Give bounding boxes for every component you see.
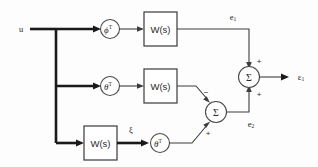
arrowhead-middle-gain [93,83,101,90]
arrowhead-output [281,74,289,81]
signal-epsilon1-sub: 1 [301,76,304,82]
wire-e2-group: e2 [227,85,255,129]
row-top-group: ϕT W(s) e1 [101,12,252,69]
sign-minus-middle-summer: − [204,88,209,97]
arrowhead-bottom-gain [141,140,149,147]
wire-e2 [227,92,250,112]
arrowhead-summer-middle-minus [203,96,210,103]
block-diagram-svg: ϕT W(s) e1 θT [0,0,318,167]
arrowhead-top-block [137,26,144,32]
block-w-top-label: W(s) [150,24,170,35]
signal-label-e1: e1 [230,12,237,22]
output-group: ε1 [260,72,305,82]
gain-theta-bottom-superscript: T [159,138,163,144]
summer-right-symbol: Σ [246,72,252,83]
block-diagram-canvas: ϕT W(s) e1 θT [0,0,318,167]
signal-e2-sub: 2 [251,123,254,129]
signal-label-e2: e2 [248,119,255,129]
summing-junction-middle[interactable]: Σ [206,102,227,123]
summer-middle-symbol: Σ [213,107,219,118]
wire-bottom-to-summer [170,124,209,143]
arrowhead-top-gain [93,26,101,33]
sign-plus-middle-summer: + [206,129,211,138]
row-bottom-group: W(s) ξ θT + [84,122,211,160]
sign-plus-right-summer-bottom: + [257,90,262,99]
signal-label-xi: ξ [129,125,133,135]
row-middle-group: θT W(s) − [101,69,211,103]
gain-theta-mid-superscript: T [109,81,113,87]
wire-top-to-summer [177,29,249,62]
arrowhead-summer-middle-plus [203,122,210,128]
gain-phi-superscript: T [109,24,113,30]
arrowhead-bottom-block [76,140,84,147]
block-w-middle-label: W(s) [150,81,170,92]
arrowhead-middle-block [137,83,144,89]
signal-label-epsilon1: ε1 [298,72,305,82]
signal-e1-sub: 1 [233,16,236,22]
sign-plus-right-summer-top: + [257,57,262,66]
block-w-bottom-label: W(s) [90,138,110,149]
input-label-u: u [19,24,24,34]
